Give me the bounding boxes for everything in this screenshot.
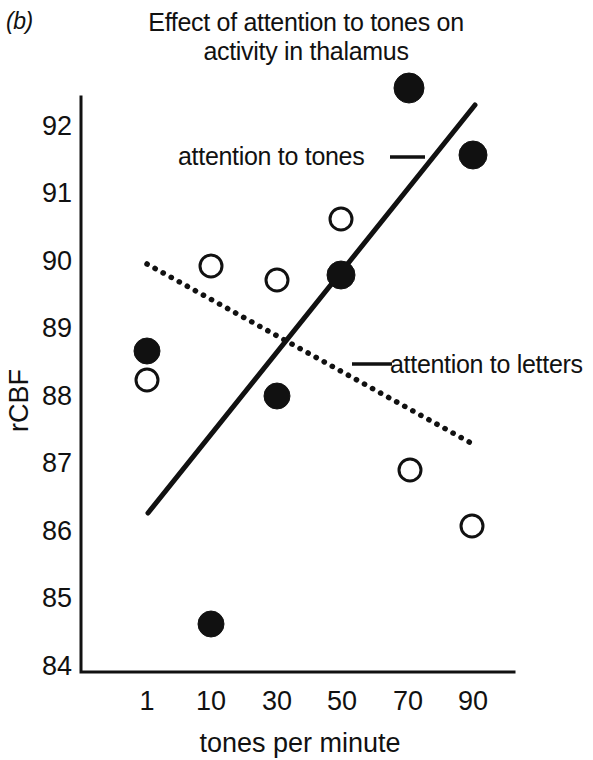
x-tick-1: 1 [139, 686, 154, 716]
data-point-open-90 [461, 515, 483, 537]
data-point-open-1 [136, 369, 158, 391]
y-axis-tick-labels: 84 85 86 87 88 89 90 91 92 [42, 111, 72, 681]
data-point-open-50 [330, 208, 352, 230]
y-axis-label: rCBF [4, 369, 34, 432]
data-point-filled-50 [327, 261, 355, 289]
data-point-filled-90 [459, 141, 487, 169]
data-point-open-70 [399, 459, 421, 481]
y-tick-92: 92 [42, 111, 72, 141]
y-tick-91: 91 [42, 178, 72, 208]
x-tick-70: 70 [393, 686, 423, 716]
annotation-attention-to-letters: attention to letters [390, 350, 583, 378]
figure-panel: (b) Effect of attention to tones on acti… [0, 0, 593, 760]
x-tick-50: 50 [327, 686, 357, 716]
x-tick-90: 90 [458, 686, 488, 716]
y-tick-85: 85 [42, 583, 72, 613]
data-point-open-10 [200, 255, 222, 277]
x-axis-tick-labels: 1 10 30 50 70 90 [139, 686, 488, 716]
data-point-filled-10 [198, 611, 224, 637]
annotation-attention-to-tones: attention to tones [178, 142, 364, 170]
scatter-plot: 84 85 86 87 88 89 90 91 92 1 10 30 50 70… [0, 0, 593, 760]
y-tick-88: 88 [42, 381, 72, 411]
y-tick-86: 86 [42, 516, 72, 546]
y-tick-84: 84 [42, 651, 72, 681]
data-point-filled-70 [394, 73, 424, 103]
y-tick-90: 90 [42, 246, 72, 276]
data-point-filled-1 [134, 338, 160, 364]
x-tick-30: 30 [262, 686, 292, 716]
x-axis-label: tones per minute [199, 728, 400, 758]
y-tick-87: 87 [42, 448, 72, 478]
data-point-filled-30 [264, 383, 290, 409]
y-tick-89: 89 [42, 313, 72, 343]
data-point-open-30 [266, 269, 288, 291]
x-tick-10: 10 [196, 686, 226, 716]
